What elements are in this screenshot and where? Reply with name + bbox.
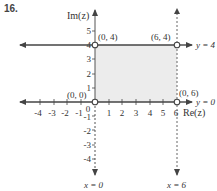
y-tick: 5 [87, 26, 92, 36]
x-tick: 5 [161, 108, 166, 118]
arrow-up-x6-icon [174, 8, 180, 14]
complex-plane-diagram: -4 -3 -2 -1 1 2 3 4 5 6 0 5 4 3 2 1 -1 -… [0, 0, 217, 191]
x-tick: 2 [120, 108, 125, 118]
line-label: x = 6 [166, 180, 187, 190]
x-tick: 6 [174, 108, 179, 118]
y-tick: 3 [87, 54, 92, 64]
y-tick: -3 [84, 140, 92, 150]
x-tick: -1 [75, 108, 83, 118]
point-6-4 [174, 42, 180, 48]
y-tick: -4 [84, 154, 92, 164]
shaded-region [95, 45, 177, 102]
y-tick: 4 [87, 40, 92, 50]
line-label: y = 4 [195, 40, 216, 50]
line-label: x = 0 [83, 180, 104, 190]
x-tick: -3 [48, 108, 56, 118]
point-label: (6, 4) [151, 32, 171, 42]
point-label: (0, 4) [98, 32, 118, 42]
x-tick: -4 [34, 108, 42, 118]
x-axis-label: Re(z) [183, 107, 205, 119]
point-0-0 [92, 99, 98, 105]
x-tick: 4 [148, 108, 153, 118]
point-0-4 [92, 42, 98, 48]
line-label: y = 0 [195, 97, 216, 107]
x-tick: 1 [107, 108, 112, 118]
y-tick: -2 [84, 126, 92, 136]
y-tick: 1 [87, 83, 92, 93]
arrow-down-x6-icon [174, 169, 180, 176]
y-tick: 2 [87, 69, 92, 79]
y-tick: -1 [84, 112, 92, 122]
point-6-0 [174, 99, 180, 105]
x-tick: -2 [61, 108, 69, 118]
y-axis-label: Im(z) [67, 10, 89, 22]
point-label: (0, 0) [67, 90, 87, 100]
x-tick: 3 [134, 108, 139, 118]
